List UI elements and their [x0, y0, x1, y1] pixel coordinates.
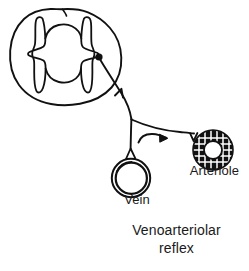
spinal-cord-outline [10, 9, 121, 105]
vein-afferent-stem [131, 119, 132, 149]
spinal-cord-group [10, 9, 121, 105]
gray-commissure-lower [46, 69, 81, 83]
arteriole-label: Arteriole [180, 163, 249, 178]
arteriole-lumen [204, 141, 222, 159]
vein-inner-wall [116, 163, 147, 194]
vein-label: Vein [109, 192, 165, 207]
figure-caption-line-1: Venoarteriolar [104, 221, 249, 239]
venoarteriolar-reflex-figure: Vein Arteriole Venoarteriolar reflex [0, 0, 249, 271]
figure-caption-line-2: reflex [104, 239, 249, 257]
gray-matter-butterfly [28, 17, 46, 92]
afferent-nerve-fiber [100, 59, 132, 120]
vein-terminal-fork-icon [126, 149, 135, 160]
dorsal-median-sulcus [63, 9, 67, 16]
efferent-nerve-fiber [131, 120, 194, 134]
nerve-pathway-group [100, 59, 198, 160]
clipped-footnote-text [2, 264, 249, 271]
gray-commissure-upper [45, 24, 81, 38]
synapse-dot [95, 53, 102, 60]
afferent-arrowhead-icon [115, 89, 123, 98]
reflex-direction-arrowhead-icon [160, 134, 168, 142]
